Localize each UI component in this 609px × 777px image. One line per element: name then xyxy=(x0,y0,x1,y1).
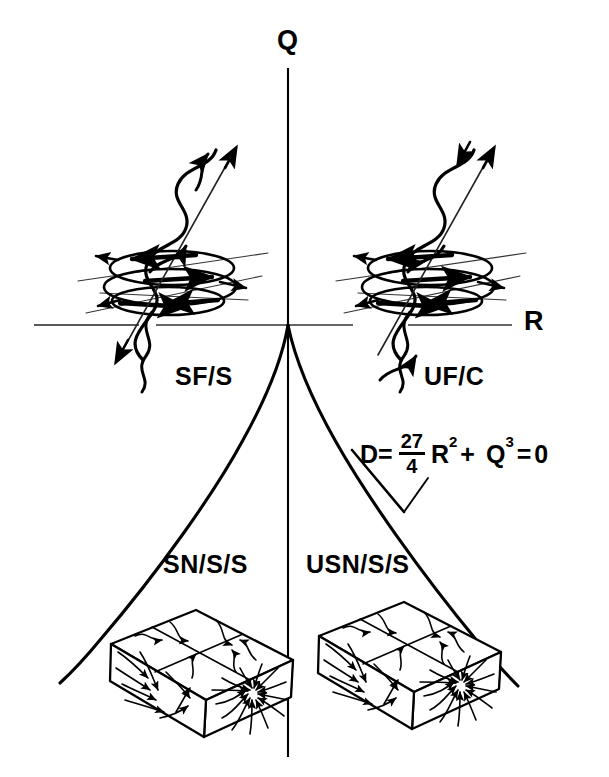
formula-operator: + xyxy=(460,442,475,467)
region-label-uf-c: UF/C xyxy=(424,364,484,389)
formula-denominator: 4 xyxy=(404,456,419,476)
discriminant-equation: D= 27 4 R2 + Q3 = 0 xyxy=(360,432,548,477)
formula-term-q: Q3 xyxy=(486,442,514,467)
spiral-left-axis-arrow-down xyxy=(116,340,128,362)
region-label-sn-s-s: SN/S/S xyxy=(163,552,248,577)
region-label-usn-s-s: USN/S/S xyxy=(306,552,410,577)
formula-term-q-base: Q xyxy=(486,440,505,468)
box-right-outline xyxy=(318,602,501,729)
spiral-left-axis-arrow-up xyxy=(225,148,236,168)
r-axis-label: R xyxy=(524,308,544,335)
formula-term-q-exponent: 3 xyxy=(505,433,513,450)
spiral-right-axis-arrow-up xyxy=(483,148,494,168)
diagram-canvas: Q R SF/S UF/C SN/S/S USN/S/S D= 27 4 R2 … xyxy=(0,0,609,777)
spiral-sketch-right xyxy=(336,142,526,392)
formula-term-r-exponent: 2 xyxy=(449,433,457,450)
box-left-outline xyxy=(110,610,293,737)
formula-fraction: 27 4 xyxy=(399,431,425,476)
formula-lhs: D= xyxy=(360,442,393,467)
formula-rhs: 0 xyxy=(534,442,548,467)
formula-term-r: R2 xyxy=(431,442,457,467)
q-axis-label: Q xyxy=(277,27,298,54)
formula-term-r-base: R xyxy=(431,440,449,468)
diagram-vector-layer xyxy=(0,0,609,777)
box-sketch-left xyxy=(110,610,293,737)
spiral-right-bottom-branch xyxy=(380,356,416,380)
formula-numerator: 27 xyxy=(399,431,425,451)
spiral-left-top-branch xyxy=(196,154,208,190)
spiral-sketch-left xyxy=(78,148,268,392)
region-label-sf-s: SF/S xyxy=(175,364,233,389)
box-sketch-right xyxy=(318,602,501,729)
formula-equals: = xyxy=(517,442,532,467)
